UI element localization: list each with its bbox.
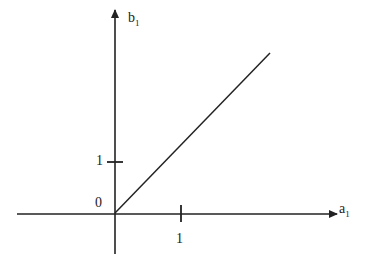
diagram-canvas: b1 a1 0 1 1 [0,0,366,267]
x-tick-label: 1 [176,231,183,247]
y-axis-label: b1 [128,10,140,28]
diagonal-line [115,53,270,213]
axes-plot [0,0,366,267]
y-tick-label: 1 [96,153,103,169]
x-axis-label: a1 [339,201,350,219]
origin-label: 0 [95,195,102,211]
